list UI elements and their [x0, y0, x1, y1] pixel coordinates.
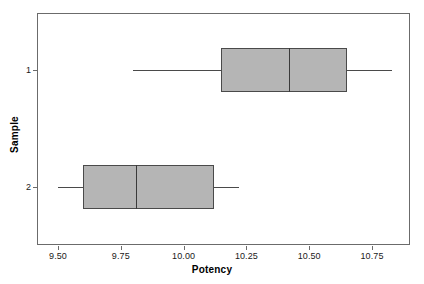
- box-iqr-rect: [83, 165, 214, 209]
- x-tick-label: 9.75: [112, 251, 130, 261]
- y-tick-mark: [33, 187, 37, 188]
- x-tick-label: 10.75: [360, 251, 383, 261]
- x-tick-mark: [246, 246, 247, 250]
- x-tick-mark: [309, 246, 310, 250]
- y-axis-title: Sample: [9, 105, 20, 165]
- x-tick-mark: [58, 246, 59, 250]
- x-tick-label: 9.50: [49, 251, 67, 261]
- y-tick-label: 2: [22, 182, 31, 192]
- y-tick-label: 1: [22, 65, 31, 75]
- x-tick-label: 10.50: [298, 251, 321, 261]
- x-tick-mark: [184, 246, 185, 250]
- boxplot-chart: 9.509.7510.0010.2510.5010.75 12 Potency …: [0, 0, 424, 284]
- median-line: [136, 165, 137, 209]
- median-line: [289, 48, 290, 92]
- x-axis-title: Potency: [0, 264, 424, 275]
- x-tick-label: 10.00: [172, 251, 195, 261]
- x-tick-mark: [121, 246, 122, 250]
- x-tick-label: 10.25: [235, 251, 258, 261]
- x-tick-mark: [372, 246, 373, 250]
- box-iqr-rect: [221, 48, 347, 92]
- y-tick-mark: [33, 70, 37, 71]
